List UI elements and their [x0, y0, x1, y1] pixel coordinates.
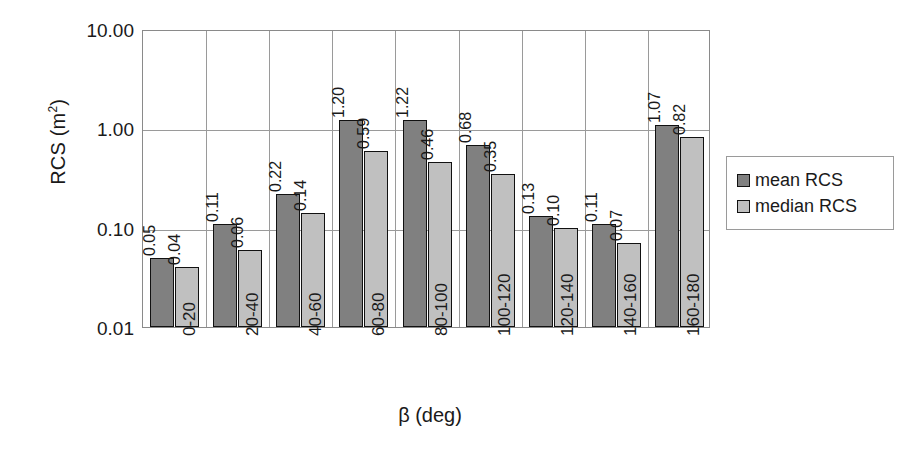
x-tick-label: 140-160 [622, 274, 639, 336]
x-tick-label: 100-120 [496, 274, 513, 336]
x-tick-label: 0-20 [181, 302, 198, 336]
bar-mean [466, 145, 490, 327]
bar-value-label: 0.04 [155, 234, 195, 265]
bar-value-label: 0.14 [281, 180, 321, 211]
vertical-gridline [648, 31, 649, 327]
legend-item: mean RCS [737, 167, 885, 193]
bar-value-label: 0.07 [597, 210, 637, 241]
x-tick-label: 60-80 [370, 293, 387, 336]
legend-label: mean RCS [755, 171, 843, 189]
bar-value-label: 1.22 [383, 87, 423, 118]
bar-mean [276, 194, 300, 327]
bar-mean [529, 216, 553, 327]
x-tick-label: 120-140 [559, 274, 576, 336]
vertical-gridline [206, 31, 207, 327]
y-tick-label: 0.01 [62, 319, 134, 338]
y-axis-tick-labels: 10.001.000.100.01 [58, 0, 134, 451]
y-tick-label: 10.00 [62, 21, 134, 40]
chart-legend: mean RCSmedian RCS [726, 156, 894, 230]
bar-mean [655, 125, 679, 327]
bar-value-label: 0.06 [218, 217, 258, 248]
bar-value-label: 0.59 [344, 118, 384, 149]
bar-value-label: 0.68 [446, 112, 486, 143]
rcs-bar-chart: RCS (m2) 10.001.000.100.01 0.050.040.110… [0, 0, 922, 451]
bar-value-label: 1.20 [319, 87, 359, 118]
bar-value-label: 0.46 [408, 129, 448, 160]
y-tick-label: 1.00 [62, 120, 134, 139]
bar-mean [150, 258, 174, 327]
legend-swatch-icon [737, 200, 750, 213]
x-tick-label: 20-40 [244, 293, 261, 336]
legend-swatch-icon [737, 174, 750, 187]
vertical-gridline [522, 31, 523, 327]
bar-value-label: 0.10 [534, 195, 574, 226]
legend-label: median RCS [755, 197, 857, 215]
x-tick-label: 80-100 [433, 283, 450, 336]
x-tick-label: 40-60 [307, 293, 324, 336]
bar-value-label: 0.82 [660, 104, 700, 135]
vertical-gridline [459, 31, 460, 327]
x-axis-title: β (deg) [340, 404, 520, 427]
y-tick-label: 0.10 [62, 220, 134, 239]
bar-value-label: 0.35 [471, 140, 511, 171]
vertical-gridline [332, 31, 333, 327]
legend-item: median RCS [737, 193, 885, 219]
vertical-gridline [395, 31, 396, 327]
x-tick-label: 160-180 [685, 274, 702, 336]
bar-mean [339, 120, 363, 327]
vertical-gridline [585, 31, 586, 327]
